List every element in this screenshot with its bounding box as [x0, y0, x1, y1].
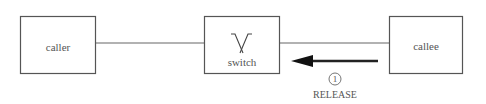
caller-label: caller — [20, 41, 96, 53]
release-label: RELEASE — [305, 89, 365, 100]
release-arrow — [291, 55, 378, 67]
switch-label: switch — [204, 56, 280, 68]
callee-label: callee — [389, 40, 463, 52]
step-number: 1 — [325, 72, 345, 86]
